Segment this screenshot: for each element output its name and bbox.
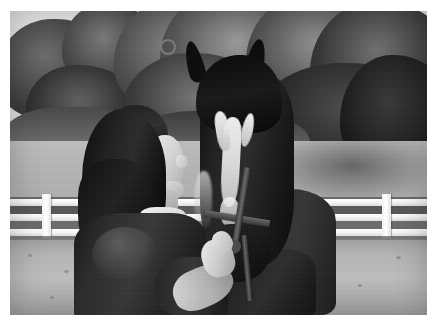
photograph [10, 11, 427, 315]
fence-post [42, 194, 51, 238]
halter-ring [160, 39, 176, 55]
woman-nose [176, 155, 188, 168]
shoulder-highlight [92, 227, 158, 281]
fence-post [382, 194, 391, 238]
woman [68, 107, 228, 315]
photo-print-frame: Black and white photo of a dark-haired w… [0, 0, 437, 326]
